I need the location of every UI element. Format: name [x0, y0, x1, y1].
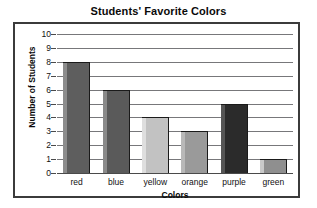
bar-green [260, 159, 287, 173]
gridline [57, 117, 293, 118]
x-axis-tick-label-blue: blue [108, 177, 124, 187]
x-axis-tick-label-purple: purple [222, 177, 246, 187]
gridline [57, 48, 293, 49]
bar-bevel [63, 63, 67, 173]
bar-yellow [142, 117, 169, 173]
y-axis-tick-label: 0 [27, 169, 51, 178]
gridline [57, 34, 293, 35]
gridline [57, 90, 293, 91]
chart-screenshot: Students' Favorite Colors Number of Stud… [0, 0, 317, 208]
x-axis-tick-label-yellow: yellow [144, 177, 168, 187]
gridline [57, 145, 293, 146]
x-axis-baseline [57, 173, 293, 174]
y-axis-tick-label: 10 [27, 30, 51, 39]
y-axis-tick-mark [51, 48, 56, 49]
gridline [57, 62, 293, 63]
bar-bevel [221, 105, 225, 174]
y-axis-tick-label: 4 [27, 113, 51, 122]
bar-bevel [103, 91, 107, 173]
x-axis-tick-label-red: red [71, 177, 83, 187]
y-axis-tick-mark [51, 62, 56, 63]
y-axis-tick-label: 9 [27, 44, 51, 53]
y-axis-tick-label: 2 [27, 141, 51, 150]
y-axis-tick-mark [51, 90, 56, 91]
y-axis-tick-label: 1 [27, 155, 51, 164]
gridline [57, 76, 293, 77]
bar-orange [181, 131, 208, 173]
y-axis-tick-mark [51, 145, 56, 146]
y-axis-tick-mark [51, 76, 56, 77]
y-axis-tick-mark [51, 131, 56, 132]
y-axis-tick-label: 5 [27, 99, 51, 108]
bar-blue [103, 90, 130, 173]
y-axis-tick-mark [51, 104, 56, 105]
gridline [57, 131, 293, 132]
y-axis-tick-label: 6 [27, 85, 51, 94]
bar-bevel [181, 132, 185, 173]
plot-area: 109876543210redblueyelloworangepurplegre… [57, 34, 293, 173]
chart-frame: Number of Students 109876543210redblueye… [13, 22, 300, 198]
bar-bevel [260, 160, 264, 173]
x-axis-tick-label-orange: orange [181, 177, 207, 187]
x-axis-title: Colors [57, 190, 293, 200]
bar-red [63, 62, 90, 173]
y-axis-tick-mark [51, 173, 56, 174]
x-axis-tick-label-green: green [262, 177, 284, 187]
y-axis-tick-label: 7 [27, 71, 51, 80]
y-axis-tick-mark [51, 117, 56, 118]
page-title: Students' Favorite Colors [0, 5, 317, 17]
y-axis-tick-mark [51, 159, 56, 160]
y-axis-tick-label: 3 [27, 127, 51, 136]
bar-bevel [142, 118, 146, 173]
y-axis-tick-label: 8 [27, 58, 51, 67]
gridline [57, 159, 293, 160]
bar-purple [221, 104, 248, 174]
gridline [57, 104, 293, 105]
y-axis-tick-mark [51, 34, 56, 35]
